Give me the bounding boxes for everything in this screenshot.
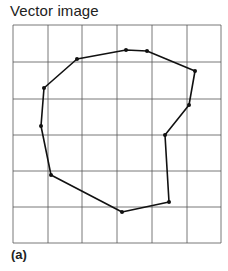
vertex-point [120, 210, 124, 214]
vertex-point [42, 86, 46, 90]
grid [13, 25, 221, 243]
vertex-point [49, 173, 53, 177]
vertex-point [75, 57, 79, 61]
vector-image-diagram [0, 0, 228, 271]
figure-caption: (a) [11, 247, 27, 262]
vertex-point [167, 200, 171, 204]
vertex-point [124, 48, 128, 52]
vector-polygon [39, 48, 197, 214]
vertex-point [193, 69, 197, 73]
polygon-outline [41, 50, 195, 212]
vertex-point [187, 103, 191, 107]
vertex-point [39, 124, 43, 128]
vertex-point [163, 133, 167, 137]
vertex-point [145, 49, 149, 53]
